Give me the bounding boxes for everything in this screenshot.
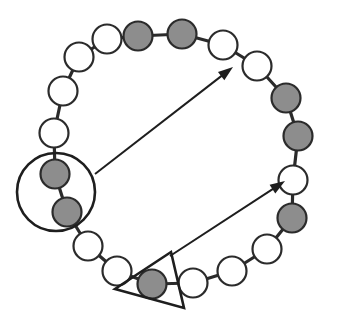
node-n17-open[interactable] (40, 119, 69, 148)
node-n11-open[interactable] (179, 269, 208, 298)
figure-container (0, 0, 339, 330)
node-n20-open[interactable] (93, 25, 122, 54)
node-n4-open[interactable] (243, 52, 272, 81)
node-n3-open[interactable] (209, 31, 238, 60)
node-n7-open[interactable] (279, 166, 308, 195)
node-n15-filled[interactable] (53, 198, 82, 227)
node-n19-open[interactable] (65, 43, 94, 72)
node-n10-open[interactable] (218, 257, 247, 286)
node-n8-filled[interactable] (278, 204, 307, 233)
arrow-1[interactable] (95, 67, 233, 174)
node-n6-filled[interactable] (284, 122, 313, 151)
node-n9-open[interactable] (253, 235, 282, 264)
arrow-1-head-icon (218, 67, 233, 80)
node-n2-filled[interactable] (168, 20, 197, 49)
arrows-layer (95, 67, 285, 256)
ring-node-diagram (0, 0, 339, 330)
arrow-1-shaft (95, 74, 224, 174)
node-n18-open[interactable] (49, 77, 78, 106)
node-n12-filled[interactable] (138, 270, 167, 299)
node-n5-filled[interactable] (272, 84, 301, 113)
node-n16-filled[interactable] (41, 160, 70, 189)
node-n14-open[interactable] (74, 232, 103, 261)
nodes-layer (40, 20, 313, 299)
node-n1-filled[interactable] (124, 22, 153, 51)
